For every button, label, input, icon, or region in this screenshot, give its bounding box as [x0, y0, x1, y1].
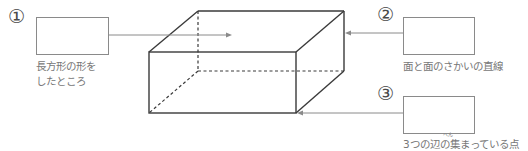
arrowhead-icon [345, 31, 351, 36]
item-number-1: ① [8, 7, 25, 26]
leader-lines [108, 33, 403, 113]
arrowhead-icon [226, 33, 232, 38]
visible-edges [149, 11, 344, 113]
hidden-edges [149, 11, 344, 113]
label-1-line2: したところ [36, 74, 86, 89]
arrowheads [226, 31, 351, 116]
answer-box-2[interactable] [403, 17, 475, 55]
label-3-post: の集まっている点 [440, 138, 519, 150]
label-2: 面と面のさかいの直線 [403, 59, 503, 74]
label-3-kanji: 辺 [430, 138, 440, 150]
label-3-pre: 3つの [403, 138, 430, 150]
item-number-3: ③ [377, 84, 394, 103]
item-number-2: ② [377, 5, 394, 24]
label-3: 3つの辺の集まっている点 [403, 137, 519, 151]
answer-box-3[interactable] [403, 96, 475, 134]
answer-box-1[interactable] [36, 17, 109, 55]
label-1-line1: 長方形の形を [36, 59, 96, 74]
